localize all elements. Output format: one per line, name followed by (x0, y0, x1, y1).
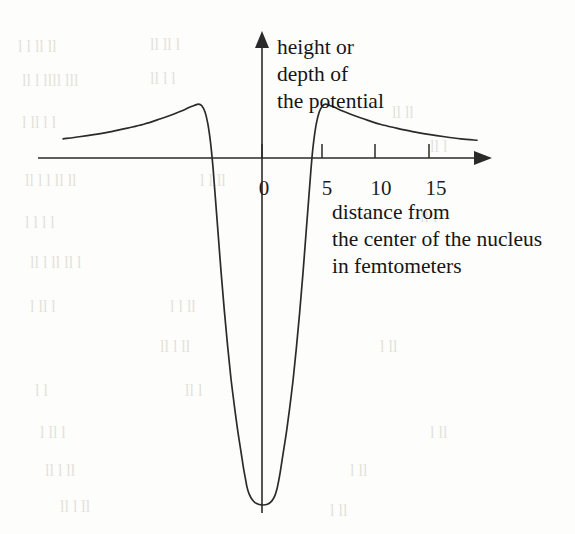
svg-text:ll l ll: ll l ll (60, 498, 91, 515)
svg-text:ll l ll: ll l ll (45, 462, 76, 479)
x-axis-label-line-2: the center of the nucleus (332, 227, 542, 251)
svg-text:l l ll: l l ll (170, 298, 196, 315)
x-axis-label-line-3: in femtometers (332, 254, 462, 278)
svg-text:ll l llll lll: ll l llll lll (22, 72, 79, 89)
svg-text:l ll l: l ll l (40, 424, 66, 441)
svg-text:ll l l: ll l l (150, 70, 176, 87)
x-tick-label-10: 10 (371, 176, 392, 200)
x-tick-label-15: 15 (426, 176, 447, 200)
y-axis-label-line-3: the potential (277, 89, 384, 113)
x-tick-label-5: 5 (322, 176, 333, 200)
svg-text:l l ll ll: l l ll ll (18, 38, 57, 55)
y-axis-label-line-1: height or (277, 35, 354, 59)
svg-text:ll ll l: ll ll l (150, 36, 181, 53)
x-axis-label-line-1: distance from (332, 200, 450, 224)
svg-text:ll l ll ll l: ll l ll ll l (30, 254, 82, 271)
svg-text:ll l: ll l (430, 138, 448, 155)
svg-text:l ll: l ll (330, 502, 348, 519)
svg-text:l ll: l ll (380, 338, 398, 355)
svg-text:ll l l ll ll: ll l l ll ll (25, 172, 77, 189)
svg-text:ll ll: ll ll (392, 104, 414, 121)
x-tick-label-0: 0 (259, 176, 270, 200)
svg-text:l ll: l ll (350, 462, 368, 479)
svg-text:l ll l l: l ll l l (22, 114, 57, 131)
nuclear-potential-figure: l l ll ll ll ll l ll l llll lll ll l l l… (0, 0, 575, 534)
svg-text:ll l ll: ll l ll (160, 338, 191, 355)
svg-text:l l: l l (35, 382, 48, 399)
svg-text:ll l: ll l (185, 382, 203, 399)
svg-text:l l l l: l l l l (25, 214, 55, 231)
y-axis-label-line-2: depth of (277, 62, 349, 86)
svg-text:l ll: l ll (430, 424, 448, 441)
svg-text:l ll l: l ll l (30, 298, 56, 315)
